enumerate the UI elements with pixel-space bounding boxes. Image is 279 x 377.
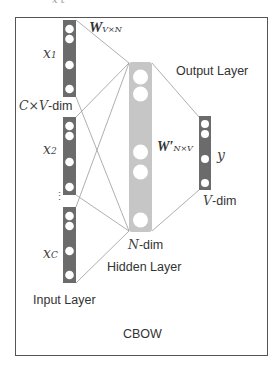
output-weight-matrix-label: W′N×V bbox=[157, 139, 193, 155]
output-layer-label: Output Layer bbox=[176, 64, 248, 78]
input-dim-label: C×V-dim bbox=[19, 98, 72, 113]
hidden-dim-suffix: -dim bbox=[139, 238, 163, 252]
weight-subscript: V×N bbox=[102, 25, 121, 34]
hidden-dim-label: N-dim bbox=[128, 237, 163, 252]
input-label-x1: x1 bbox=[43, 45, 57, 61]
input-label-x2: x2 bbox=[43, 141, 57, 157]
input-weight-matrix-label: WV×N bbox=[89, 19, 122, 36]
x2-symbol: x bbox=[43, 141, 51, 157]
xc-subscript: C bbox=[51, 250, 58, 260]
x2-subscript: 2 bbox=[51, 146, 57, 156]
input-vector-xc bbox=[63, 207, 76, 283]
weight-symbol: W bbox=[89, 19, 102, 35]
hidden-layer-label: Hidden Layer bbox=[107, 260, 181, 274]
x1-symbol: x bbox=[43, 45, 51, 61]
output-vector-y bbox=[199, 116, 211, 190]
output-dim-symbol: V bbox=[203, 193, 212, 208]
x1-subscript: 1 bbox=[51, 50, 57, 60]
diagram-title: CBOW bbox=[123, 327, 162, 341]
input-vector-x2 bbox=[63, 117, 76, 195]
weight-prime-subscript: N×V bbox=[173, 144, 192, 153]
hidden-layer-vector bbox=[129, 62, 152, 232]
input-label-xc: xC bbox=[43, 245, 58, 261]
xc-symbol: x bbox=[43, 245, 51, 261]
input-layer-label: Input Layer bbox=[33, 293, 96, 307]
hidden-dim-symbol: N bbox=[128, 237, 139, 252]
output-vector-label: y bbox=[217, 147, 225, 163]
input-vector-x1 bbox=[63, 20, 76, 97]
input-dim-suffix: -dim bbox=[48, 99, 72, 113]
input-ellipsis: ⋮ bbox=[54, 192, 65, 200]
cbow-network-diagram bbox=[0, 0, 279, 377]
weight-prime-symbol: W′ bbox=[157, 139, 173, 154]
input-dim-symbol: C×V bbox=[19, 98, 48, 113]
output-dim-suffix: -dim bbox=[212, 194, 236, 208]
input-to-hidden-connections bbox=[76, 20, 129, 283]
output-dim-label: V-dim bbox=[203, 193, 236, 208]
